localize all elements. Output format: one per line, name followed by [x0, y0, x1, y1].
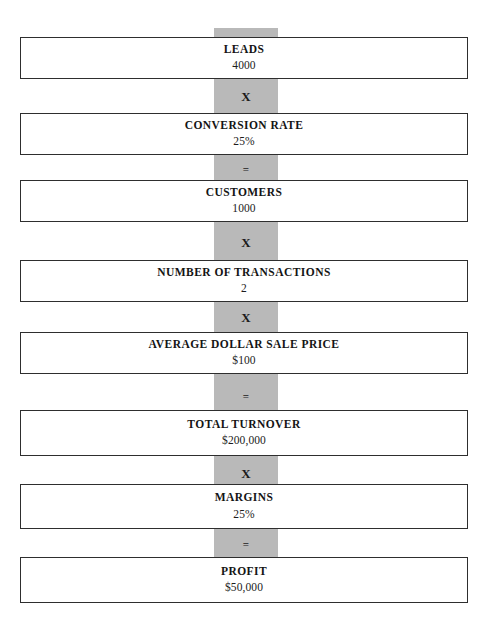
node-value: $200,000 [222, 434, 266, 448]
operator-multiply-1: X [214, 90, 278, 103]
node-label: TOTAL TURNOVER [187, 418, 300, 431]
node-value: $100 [232, 354, 255, 368]
node-number-of-transactions: NUMBER OF TRANSACTIONS 2 [20, 260, 468, 302]
node-leads: LEADS 4000 [20, 37, 468, 79]
node-customers: CUSTOMERS 1000 [20, 180, 468, 222]
node-label: CUSTOMERS [206, 186, 283, 199]
node-profit: PROFIT $50,000 [20, 557, 468, 603]
operator-equals-3: = [214, 539, 278, 550]
node-average-dollar-sale-price: AVERAGE DOLLAR SALE PRICE $100 [20, 332, 468, 374]
node-label: NUMBER OF TRANSACTIONS [157, 266, 330, 279]
operator-multiply-2: X [214, 236, 278, 249]
node-label: PROFIT [221, 565, 267, 578]
node-value: 25% [233, 508, 254, 522]
node-label: MARGINS [215, 491, 274, 504]
node-label: AVERAGE DOLLAR SALE PRICE [149, 338, 340, 351]
operator-equals-1: = [214, 164, 278, 175]
node-value: 25% [233, 135, 254, 149]
node-value: 4000 [232, 59, 255, 73]
node-label: CONVERSION RATE [185, 119, 304, 132]
node-value: $50,000 [225, 581, 263, 595]
operator-multiply-3: X [214, 311, 278, 324]
node-value: 1000 [232, 202, 255, 216]
node-conversion-rate: CONVERSION RATE 25% [20, 113, 468, 155]
operator-equals-2: = [214, 391, 278, 402]
node-value: 2 [241, 282, 247, 296]
node-label: LEADS [224, 43, 265, 56]
operator-multiply-4: X [214, 467, 278, 480]
node-margins: MARGINS 25% [20, 484, 468, 529]
profit-formula-diagram: LEADS 4000 X CONVERSION RATE 25% = CUSTO… [0, 0, 497, 625]
node-total-turnover: TOTAL TURNOVER $200,000 [20, 410, 468, 456]
